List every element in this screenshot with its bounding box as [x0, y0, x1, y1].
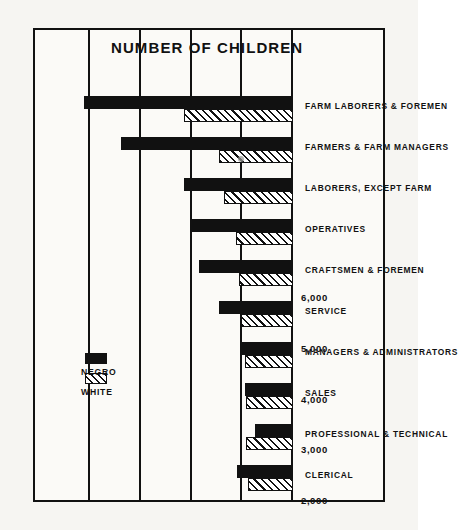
bar-negro [219, 301, 293, 314]
bar-negro [84, 96, 293, 109]
bar-negro [191, 219, 293, 232]
bar-white [236, 232, 293, 245]
bar-white [219, 150, 293, 163]
category-label: CLERICAL [305, 470, 353, 480]
category-label: SALES [305, 388, 337, 398]
bar-negro [121, 137, 293, 150]
value-tick-label: 2,000 [301, 495, 328, 506]
bar-group [65, 178, 293, 204]
bar-negro [199, 260, 293, 273]
legend-label-negro: NEGRO [81, 367, 117, 377]
bar-white [241, 314, 293, 327]
value-tick-label: 3,000 [301, 444, 328, 455]
legend-swatch-negro-icon [85, 353, 107, 364]
bar-white [184, 109, 293, 122]
bar-chart-figure: 2,0003,0004,0005,0006,000 NUMBER OF CHIL… [33, 28, 385, 502]
bar-white [245, 355, 293, 368]
bar-group [65, 301, 293, 327]
category-label: FARM LABORERS & FOREMEN [305, 101, 448, 111]
bar-negro [242, 342, 293, 355]
value-axis-title: NUMBER OF CHILDREN [111, 39, 303, 56]
scan-artifact-speck [238, 156, 244, 162]
legend-item-negro: NEGRO [85, 353, 107, 364]
bar-negro [237, 465, 293, 478]
category-label: PROFESSIONAL & TECHNICAL [305, 429, 448, 439]
bar-negro [255, 424, 294, 437]
bar-series-group [65, 30, 293, 500]
bar-white [248, 478, 293, 491]
category-label: OPERATIVES [305, 224, 366, 234]
legend-label-white: WHITE [81, 387, 113, 397]
bar-white [246, 396, 293, 409]
value-tick-label: 6,000 [301, 292, 328, 303]
plot-area [65, 30, 293, 500]
bar-group [65, 465, 293, 491]
bar-white [239, 273, 293, 286]
category-label: FARMERS & FARM MANAGERS [305, 142, 449, 152]
bar-group [65, 424, 293, 450]
bar-negro [184, 178, 293, 191]
category-label: MANAGERS & ADMINISTRATORS [305, 347, 458, 357]
bar-white [246, 437, 293, 450]
bar-group [65, 137, 293, 163]
category-label: CRAFTSMEN & FOREMEN [305, 265, 424, 275]
category-label: SERVICE [305, 306, 347, 316]
bar-group [65, 219, 293, 245]
category-label: LABORERS, EXCEPT FARM [305, 183, 432, 193]
bar-white [224, 191, 293, 204]
bar-group [65, 96, 293, 122]
bar-negro [245, 383, 293, 396]
bar-group [65, 260, 293, 286]
